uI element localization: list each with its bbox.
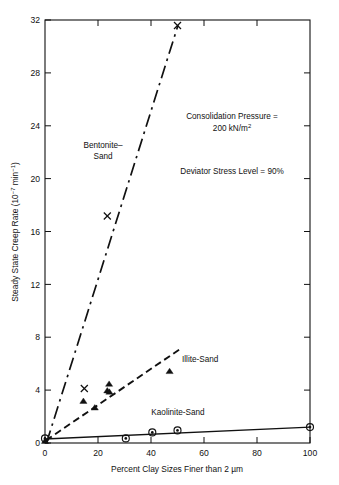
chart-figure: 0 4 8 12 16 20 24 28 32 0 20 40 60 80 10… <box>0 0 339 485</box>
y-axis-title-end: ) <box>10 162 20 165</box>
x-tick-label-0: 0 <box>43 448 48 458</box>
y-tick-label-4: 4 <box>35 385 40 395</box>
data-point <box>106 381 113 386</box>
consolidation-pressure-line1: Consolidation Pressure = <box>186 112 278 121</box>
y-axis-ticks-left <box>45 20 51 443</box>
x-axis-tick-labels: 0 20 40 60 80 100 <box>43 448 318 458</box>
y-axis-tick-labels: 0 4 8 12 16 20 24 28 32 <box>30 15 40 448</box>
series-illite-sand: Illite-Sand <box>41 349 218 443</box>
y-axis-title-mid: min <box>10 171 20 187</box>
annotation-consolidation-pressure: Consolidation Pressure = 200 kN/m2 <box>186 112 278 133</box>
y-tick-label-20: 20 <box>30 174 40 184</box>
y-tick-label-24: 24 <box>30 121 40 131</box>
y-axis-title-exp2: −1 <box>10 165 16 172</box>
x-tick-label-20: 20 <box>93 448 103 458</box>
y-tick-label-0: 0 <box>35 438 40 448</box>
plot-frame <box>45 20 310 443</box>
y-axis-title-exp1: −7 <box>10 188 16 195</box>
data-point <box>91 405 98 410</box>
x-axis-title: Percent Clay Sizes Finer than 2 µm <box>111 464 243 474</box>
series-label-kaolinite-sand: Kaolinite-Sand <box>151 408 205 417</box>
data-point <box>81 385 88 392</box>
y-axis-title: Steady State Creep Rate (10−7 min−1) <box>10 162 20 302</box>
creep-rate-scatter-chart: 0 4 8 12 16 20 24 28 32 0 20 40 60 80 10… <box>0 0 339 485</box>
data-point <box>80 398 87 403</box>
y-tick-label-32: 32 <box>30 15 40 25</box>
x-tick-label-80: 80 <box>252 448 262 458</box>
illite-sand-fit-line <box>46 349 180 440</box>
series-kaolinite-sand: Kaolinite-Sand <box>42 408 314 442</box>
x-axis-title-text: Percent Clay Sizes Finer than 2 µm <box>111 464 243 474</box>
kaolinite-sand-fit-line <box>45 427 310 439</box>
y-tick-label-28: 28 <box>30 68 40 78</box>
y-axis-ticks-right <box>304 73 310 390</box>
x-tick-label-100: 100 <box>303 448 318 458</box>
consolidation-pressure-line2: 200 kN/m2 <box>213 123 251 133</box>
data-point <box>166 368 173 373</box>
x-tick-label-40: 40 <box>146 448 156 458</box>
data-point <box>104 213 111 220</box>
series-label-bentonite-sand-line2: Sand <box>93 152 113 161</box>
consolidation-pressure-value: 200 kN/m <box>213 124 248 133</box>
y-tick-label-12: 12 <box>30 280 40 290</box>
deviator-stress-line1: Deviator Stress Level = 90% <box>180 167 284 176</box>
y-tick-label-16: 16 <box>30 227 40 237</box>
series-bentonite-sand: Bentonite– Sand <box>47 22 182 443</box>
y-axis-title-main: Steady State Creep Rate (10 <box>10 194 20 302</box>
bentonite-sand-markers <box>81 22 181 392</box>
bentonite-sand-fit-line <box>47 25 179 443</box>
annotation-deviator-stress: Deviator Stress Level = 90% <box>180 167 284 176</box>
y-axis-title-text: Steady State Creep Rate (10−7 min−1) <box>10 162 20 302</box>
consolidation-pressure-exponent: 2 <box>248 123 251 129</box>
y-tick-label-8: 8 <box>35 332 40 342</box>
series-label-illite-sand: Illite-Sand <box>182 355 219 364</box>
x-tick-label-60: 60 <box>199 448 209 458</box>
series-label-bentonite-sand-line1: Bentonite– <box>83 141 123 150</box>
